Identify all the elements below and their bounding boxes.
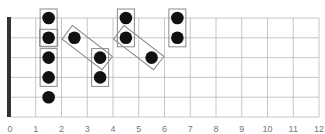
fretboard-diagram: 0123456789101112 <box>0 0 325 134</box>
fret-label: 3 <box>85 124 90 134</box>
note-dot <box>94 71 107 84</box>
note-dot <box>171 12 184 25</box>
note-dot <box>68 32 81 45</box>
note-dot <box>42 91 55 104</box>
note-dot <box>42 51 55 64</box>
note-dot <box>145 51 158 64</box>
note-dot <box>42 71 55 84</box>
note-dot <box>42 12 55 25</box>
fret-label: 11 <box>289 124 298 134</box>
note-dot <box>120 32 133 45</box>
note-dot <box>42 32 55 45</box>
fret-label: 6 <box>162 124 167 134</box>
fret-label: 2 <box>59 124 64 134</box>
fret-label: 8 <box>213 124 218 134</box>
fret-label: 0 <box>7 124 12 134</box>
fretboard-grid <box>10 18 319 117</box>
fret-label: 5 <box>136 124 141 134</box>
fret-label: 7 <box>188 124 193 134</box>
note-dot <box>120 12 133 25</box>
fret-number-labels: 0123456789101112 <box>7 124 324 134</box>
nut <box>7 17 11 117</box>
note-dot <box>94 51 107 64</box>
fret-label: 12 <box>314 124 324 134</box>
note-dot <box>171 32 184 45</box>
fret-label: 1 <box>33 124 38 134</box>
fret-label: 10 <box>262 124 272 134</box>
fret-label: 4 <box>110 124 115 134</box>
fret-label: 9 <box>239 124 244 134</box>
